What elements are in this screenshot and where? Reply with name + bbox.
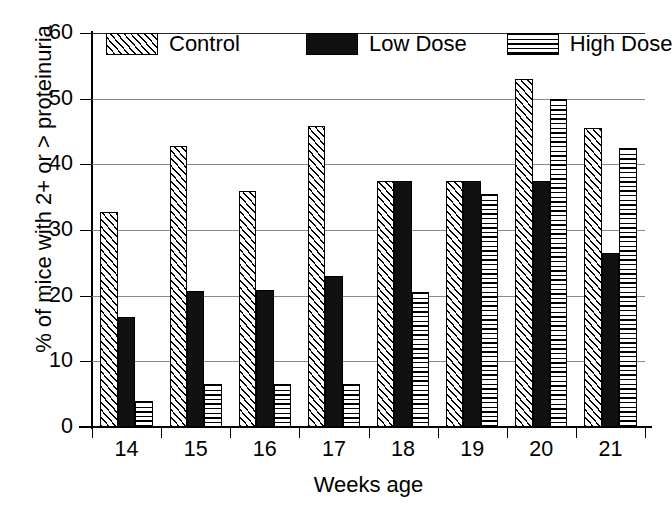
bar-group-week-18 — [369, 33, 438, 427]
bar-group-week-16 — [230, 33, 299, 427]
bar-low-dose-week-18 — [394, 181, 411, 427]
y-tick-label-20: 20 — [33, 285, 73, 307]
bar-low-dose-week-17 — [325, 276, 342, 427]
x-tick-label-week-17: 17 — [304, 437, 364, 461]
y-tick-60 — [80, 33, 91, 34]
y-tick-50 — [80, 99, 91, 100]
bar-control-week-16 — [239, 191, 256, 427]
bar-control-week-15 — [170, 146, 187, 427]
chart-legend: Control Low Dose High Dose — [106, 30, 626, 58]
legend-item-high-dose: High Dose — [507, 33, 672, 55]
y-tick-label-10: 10 — [33, 350, 73, 372]
y-tick-label-50: 50 — [33, 88, 73, 110]
legend-swatch-high-dose — [507, 33, 559, 55]
bar-group-week-21 — [576, 33, 645, 427]
x-tick-label-week-19: 19 — [442, 437, 502, 461]
legend-label-control: Control — [169, 33, 240, 55]
x-tick-1 — [161, 427, 162, 438]
bar-high-dose-week-16 — [274, 384, 291, 427]
x-tick-8 — [645, 427, 646, 438]
x-tick-label-week-15: 15 — [166, 437, 226, 461]
plot-area — [92, 33, 645, 427]
bar-high-dose-week-19 — [481, 194, 498, 427]
bar-group-week-17 — [299, 33, 368, 427]
y-tick-20 — [80, 296, 91, 297]
bar-control-week-18 — [377, 181, 394, 427]
bar-group-week-15 — [161, 33, 230, 427]
legend-label-low-dose: Low Dose — [369, 33, 467, 55]
bar-low-dose-week-21 — [602, 253, 619, 427]
bar-group-week-20 — [507, 33, 576, 427]
y-tick-30 — [80, 230, 91, 231]
x-tick-label-week-14: 14 — [97, 437, 157, 461]
legend-label-high-dose: High Dose — [570, 33, 672, 55]
legend-swatch-control — [106, 33, 158, 55]
x-tick-label-week-21: 21 — [580, 437, 640, 461]
x-tick-label-week-20: 20 — [511, 437, 571, 461]
y-tick-40 — [80, 164, 91, 165]
bar-group-week-19 — [438, 33, 507, 427]
x-tick-label-week-16: 16 — [235, 437, 295, 461]
x-tick-7 — [576, 427, 577, 438]
bar-low-dose-week-19 — [463, 181, 480, 427]
legend-item-low-dose: Low Dose — [306, 33, 467, 55]
legend-swatch-low-dose — [306, 33, 358, 55]
bar-low-dose-week-20 — [533, 181, 550, 427]
y-tick-0 — [80, 427, 91, 428]
y-tick-10 — [80, 361, 91, 362]
x-tick-4 — [369, 427, 370, 438]
y-tick-label-60: 60 — [33, 22, 73, 44]
bar-control-week-21 — [584, 128, 601, 427]
y-tick-label-30: 30 — [33, 219, 73, 241]
x-tick-label-week-18: 18 — [373, 437, 433, 461]
x-tick-2 — [230, 427, 231, 438]
x-tick-5 — [438, 427, 439, 438]
bar-low-dose-week-14 — [118, 317, 135, 427]
x-tick-3 — [299, 427, 300, 438]
bar-low-dose-week-15 — [187, 291, 204, 427]
bar-high-dose-week-17 — [343, 384, 360, 427]
y-tick-label-40: 40 — [33, 153, 73, 175]
bar-high-dose-week-18 — [412, 292, 429, 427]
legend-item-control: Control — [106, 33, 240, 55]
x-axis-title: Weeks age — [92, 472, 645, 498]
bar-control-week-19 — [446, 181, 463, 427]
bar-control-week-20 — [515, 79, 532, 427]
bar-high-dose-week-21 — [619, 148, 636, 427]
bar-low-dose-week-16 — [256, 290, 273, 427]
bar-high-dose-week-14 — [135, 401, 152, 427]
x-tick-6 — [507, 427, 508, 438]
bar-group-week-14 — [92, 33, 161, 427]
bar-high-dose-week-20 — [550, 99, 567, 427]
y-tick-label-0: 0 — [33, 416, 73, 438]
x-tick-0 — [92, 427, 93, 438]
bar-control-week-17 — [308, 126, 325, 427]
bar-control-week-14 — [100, 212, 117, 427]
y-axis-title: % of mice with 2+ or > proteinuria — [31, 0, 57, 399]
bar-high-dose-week-15 — [204, 384, 221, 427]
